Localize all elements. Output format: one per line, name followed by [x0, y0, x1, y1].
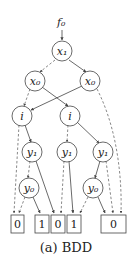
node-x1: x₁ — [52, 41, 72, 61]
terminal-0-b: 0 — [51, 215, 65, 233]
edge-y1a-y0a — [28, 161, 30, 178]
edge-x1-x0a — [40, 60, 55, 72]
terminal-1-a: 1 — [35, 215, 49, 233]
edge-ia-y1a — [25, 125, 31, 142]
terminal-0-a: 0 — [11, 215, 24, 233]
svg-text:i: i — [68, 110, 72, 123]
edge-ib-y1b — [67, 125, 68, 142]
node-y1-middle: y₁ — [57, 142, 77, 162]
svg-text:y₁: y₁ — [97, 146, 109, 159]
svg-text:1: 1 — [39, 218, 46, 231]
node-x0-right: x₀ — [80, 71, 100, 91]
node-x0-left: x₀ — [25, 71, 45, 91]
edge-x0a-ia — [24, 89, 30, 106]
svg-text:y₁: y₁ — [61, 146, 73, 159]
svg-text:x₁: x₁ — [57, 45, 68, 58]
edge-y1b-t0b — [61, 161, 64, 213]
node-i-right: i — [60, 106, 80, 126]
root-label: f₀ — [56, 16, 66, 29]
node-y1-right: y₁ — [93, 142, 113, 162]
svg-text:y₀: y₀ — [23, 182, 35, 195]
node-y0-left: y₀ — [19, 178, 39, 198]
svg-text:i: i — [20, 110, 24, 123]
edge-y0b-t0c — [98, 197, 105, 213]
svg-text:x₀: x₀ — [85, 75, 96, 88]
edge-y1b-t1b — [69, 161, 73, 213]
edge-y0a-t1a — [33, 197, 40, 213]
svg-text:0: 0 — [110, 218, 117, 231]
svg-text:x₀: x₀ — [30, 75, 41, 88]
edge-x1-x0b — [69, 60, 86, 72]
terminal-1-b: 1 — [67, 215, 81, 233]
diagram-caption: (a) BDD — [40, 240, 92, 255]
bdd-diagram: f₀ x₁ x₀ x₀ i — [0, 0, 132, 269]
svg-text:0: 0 — [55, 218, 62, 231]
node-y1-left: y₁ — [22, 142, 42, 162]
terminal-0-c: 0 — [101, 215, 126, 233]
edge-ib-y1c — [77, 122, 99, 143]
edge-y0a-t0a — [19, 197, 25, 213]
edge-ia-t0a — [14, 125, 19, 213]
edge-y1c-t0c — [106, 161, 113, 213]
svg-text:1: 1 — [71, 218, 78, 231]
svg-text:0: 0 — [14, 218, 21, 231]
node-y0-right: y₀ — [83, 178, 103, 198]
edge-y1c-y0b — [95, 161, 100, 178]
node-i-left: i — [12, 106, 32, 126]
svg-text:y₀: y₀ — [87, 182, 99, 195]
edge-y0b-t1b — [80, 197, 88, 213]
svg-text:y₁: y₁ — [26, 146, 38, 159]
